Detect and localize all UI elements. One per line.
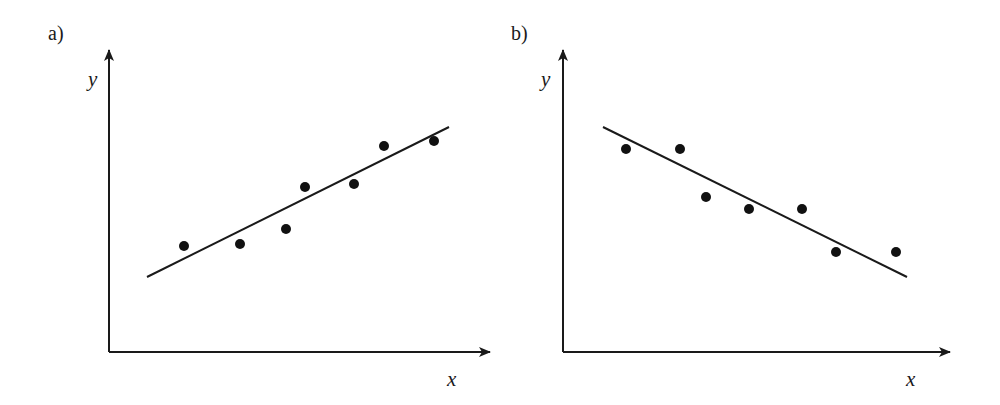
y-axis-label: y <box>539 67 551 91</box>
y-axis-label: y <box>86 67 98 91</box>
data-point <box>179 241 189 251</box>
data-point <box>235 239 245 249</box>
data-point <box>744 204 754 214</box>
panel-label: b) <box>511 22 528 45</box>
regression-line <box>603 127 907 277</box>
figure: a)yx b)yx <box>0 0 1000 405</box>
data-point <box>429 136 439 146</box>
panel-b: b)yx <box>511 22 950 391</box>
x-axis-label: x <box>446 367 457 391</box>
data-point <box>675 144 685 154</box>
data-point <box>379 141 389 151</box>
data-point <box>621 144 631 154</box>
data-point <box>797 204 807 214</box>
data-point <box>281 224 291 234</box>
data-point <box>349 179 359 189</box>
x-axis-label: x <box>905 367 916 391</box>
data-point <box>891 247 901 257</box>
data-point <box>701 192 711 202</box>
panel-a: a)yx <box>48 22 490 391</box>
regression-line <box>147 127 449 277</box>
data-point <box>831 247 841 257</box>
panel-label: a) <box>48 22 64 45</box>
data-point <box>300 182 310 192</box>
